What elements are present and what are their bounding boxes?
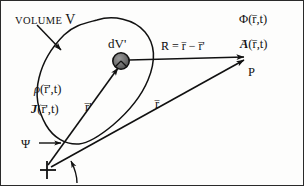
volume-label-symbol: V [62, 12, 76, 27]
vector-potential-label: –A(–r,t) [240, 38, 267, 51]
separation-vector-equation: –R = –r − –r' [161, 40, 205, 52]
vector-potential-symbol: A [240, 37, 248, 51]
current-density-args: (–r',t) [37, 102, 58, 116]
scalar-potential-args: (–r,t) [248, 12, 267, 26]
volume-label-prefix: VOLUME [15, 15, 62, 26]
volume-callout-arrow [37, 25, 61, 50]
vector-R-arrow [129, 57, 244, 60]
vector-bar-icon: – [44, 80, 49, 90]
angle-psi-label: Ψ [21, 138, 30, 151]
current-density-symbol: J [31, 102, 37, 116]
source-volume-element-dot [113, 53, 129, 69]
source-vector-label: –r' [85, 101, 91, 114]
vector-bar-icon: – [198, 37, 203, 47]
vector-r-arrow [51, 60, 244, 167]
volume-element-label: dV' [108, 37, 126, 50]
equation-body: = –r − –r' [172, 39, 205, 53]
vector-bar-icon: – [41, 100, 46, 110]
physics-diagram-retarded-potentials: VOLUMEV dV' ρ(–r',t) –J(–r',t) –r' –r –R… [0, 0, 304, 186]
vector-bar-icon: – [181, 37, 186, 47]
scalar-potential-symbol: Φ [239, 12, 248, 26]
vector-bar-icon: – [155, 95, 160, 105]
charge-density-label: ρ(–r',t) [34, 83, 61, 96]
charge-density-args: (–r',t) [40, 82, 61, 96]
vector-bar-icon: – [252, 35, 257, 45]
volume-boundary-curve [37, 18, 153, 144]
vector-bar-icon: – [252, 10, 257, 20]
observation-point-label: P [248, 66, 255, 79]
field-vector-label: –r [155, 98, 159, 111]
current-density-label: –J(–r',t) [31, 103, 59, 116]
volume-label: VOLUMEV [15, 13, 76, 27]
vector-potential-args: (–r,t) [248, 37, 267, 51]
prime-mark: ' [89, 100, 91, 114]
separation-vector-symbol: R [161, 39, 169, 53]
vector-bar-icon: – [85, 98, 90, 108]
origin-callout-arrow [71, 161, 77, 183]
scalar-potential-label: Φ(–r,t) [239, 13, 267, 26]
